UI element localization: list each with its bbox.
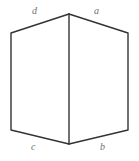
vertex-label-b: b [100,142,105,152]
vertex-label-c: c [31,142,35,152]
geometric-figure-svg [0,0,139,161]
left-panel-outline [11,14,69,144]
right-panel-outline [69,14,128,144]
figure-canvas: d a c b [0,0,139,161]
vertex-label-a: a [94,6,99,16]
vertex-label-d: d [32,6,37,16]
